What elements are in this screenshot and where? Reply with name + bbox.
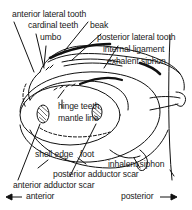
bivalve-diagram: anterior lateral tooth cardinal teeth be…: [0, 0, 192, 210]
label-internal-ligament: internal ligament: [103, 45, 164, 54]
label-anterior-adductor-scar: anterior adductor scar: [13, 181, 94, 190]
label-shell-edge: shell edge: [35, 150, 73, 159]
label-foot: foot: [80, 150, 94, 159]
label-posterior-lateral-tooth: posterior lateral tooth: [97, 33, 175, 42]
label-exhalent-siphon: exhalent siphon: [107, 57, 166, 66]
left-arrow-icon: [6, 194, 12, 200]
label-anterior-lateral-tooth: anterior lateral tooth: [12, 10, 86, 19]
right-arrow-icon: [171, 194, 177, 200]
label-mantle-line: mantle line: [58, 114, 98, 123]
label-hinge-teeth: hinge teeth: [58, 102, 99, 111]
label-cardinal-teeth: cardinal teeth: [28, 21, 78, 30]
label-posterior: posterior: [121, 192, 154, 201]
label-anterior: anterior: [26, 192, 54, 201]
label-posterior-adductor-scar: posterior adductor scar: [53, 170, 139, 179]
label-umbo: umbo: [40, 33, 61, 42]
label-beak: beak: [90, 21, 108, 30]
label-inhalent-siphon: inhalent siphon: [108, 160, 164, 169]
